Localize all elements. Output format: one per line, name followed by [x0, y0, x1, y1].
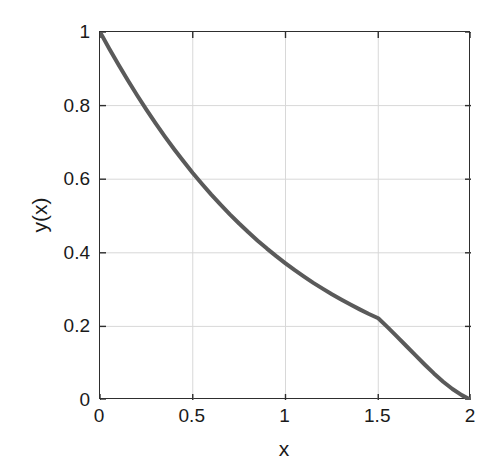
x-axis-label: x [279, 437, 290, 461]
figure-canvas: 1 0.8 0.6 0.4 0.2 0 0 0.5 1 1.5 2 x y(x) [0, 0, 496, 472]
xtick-label-0: 0 [94, 406, 105, 425]
ytick-label-1: 1 [40, 22, 90, 41]
ytick-label-0.8: 0.8 [40, 95, 90, 114]
gridlines [100, 32, 471, 400]
xtick-label-1.5: 1.5 [364, 406, 390, 425]
ytick-label-0.6: 0.6 [40, 169, 90, 188]
xtick-label-2: 2 [465, 406, 476, 425]
plot-area [99, 31, 470, 399]
ytick-label-0: 0 [40, 390, 90, 409]
ytick-label-0.4: 0.4 [40, 242, 90, 261]
xtick-label-0.5: 0.5 [179, 406, 205, 425]
xtick-label-1: 1 [279, 406, 290, 425]
ytick-label-0.2: 0.2 [40, 316, 90, 335]
y-axis-label: y(x) [28, 198, 52, 233]
plot-svg [100, 32, 471, 400]
